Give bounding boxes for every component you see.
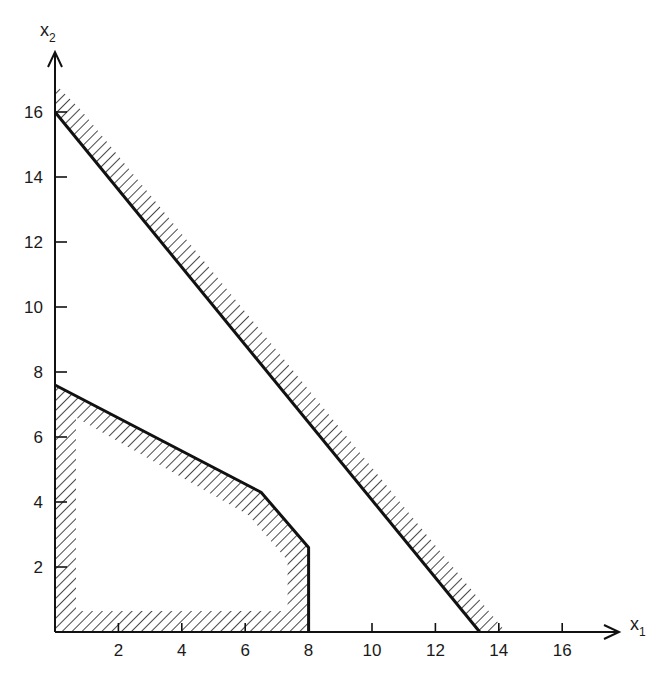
y-tick-label: 12	[24, 233, 43, 252]
y-tick-label: 10	[24, 298, 43, 317]
x-tick-label: 2	[114, 641, 123, 660]
constraint-line	[55, 112, 480, 632]
x-tick-label: 6	[240, 641, 249, 660]
x-tick-label: 8	[304, 641, 313, 660]
y-tick-label: 2	[34, 558, 43, 577]
lp-constraint-diagram: 246810121416 246810121416 x1 x2	[0, 0, 668, 678]
y-tick-label: 6	[34, 428, 43, 447]
x-axis-label: x1	[630, 614, 646, 639]
x-tick-label: 16	[553, 641, 572, 660]
y-tick-label: 8	[34, 363, 43, 382]
y-tick-label: 16	[24, 103, 43, 122]
x-tick-label: 10	[363, 641, 382, 660]
y-tick-label: 4	[34, 493, 43, 512]
x-tick-label: 14	[489, 641, 508, 660]
y-axis-label: x2	[40, 20, 56, 45]
feasible-region-hatch-band	[55, 385, 309, 632]
y-tick-label: 14	[24, 168, 43, 187]
x-tick-label: 4	[177, 641, 186, 660]
x-tick-label: 12	[426, 641, 445, 660]
